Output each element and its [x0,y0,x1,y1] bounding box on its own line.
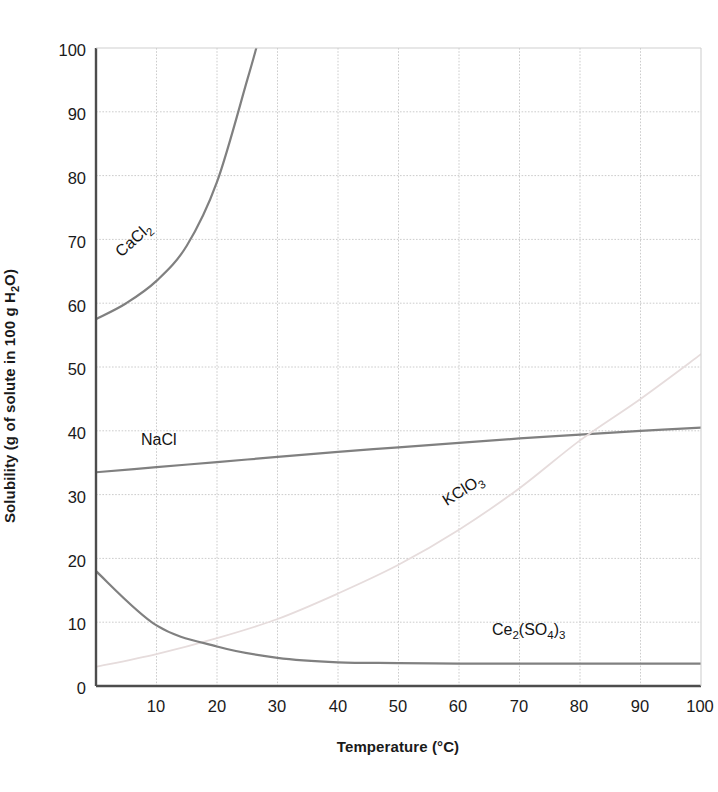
curve-label-ce2so43: Ce2(SO4)3 [492,622,565,638]
curve-label-ce2so43-sub3: 3 [559,629,565,641]
curve-label-nacl-formula: NaCl [141,431,177,448]
curve-label-ce2so43-part2: (SO [519,621,547,638]
curve-label-ce2so43-part1: Ce [492,621,512,638]
curve-cacl2 [96,48,256,319]
curve-label-nacl: NaCl [141,432,177,448]
gridlines [96,48,701,686]
